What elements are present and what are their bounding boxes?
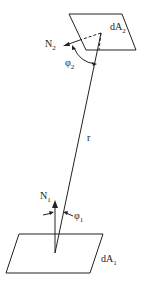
surface-dA2 <box>69 14 136 50</box>
arrowhead-phi1-left-icon <box>49 211 54 215</box>
arrowhead-phi2-top-icon <box>72 45 76 50</box>
label-phi1: φ1 <box>74 210 84 224</box>
label-dA1: dA1 <box>101 253 117 267</box>
normal-N2-dashed <box>80 33 101 40</box>
label-N1: N1 <box>40 190 51 204</box>
arrowhead-N2-icon <box>63 42 70 46</box>
label-r: r <box>87 132 91 143</box>
label-phi2: φ2 <box>65 57 75 71</box>
label-N2: N2 <box>45 38 56 52</box>
arrowhead-N1-icon <box>52 200 58 208</box>
radiation-view-factor-diagram: dA2 dA1 N2 N1 φ2 φ1 r <box>0 0 156 288</box>
label-dA2: dA2 <box>110 21 126 35</box>
